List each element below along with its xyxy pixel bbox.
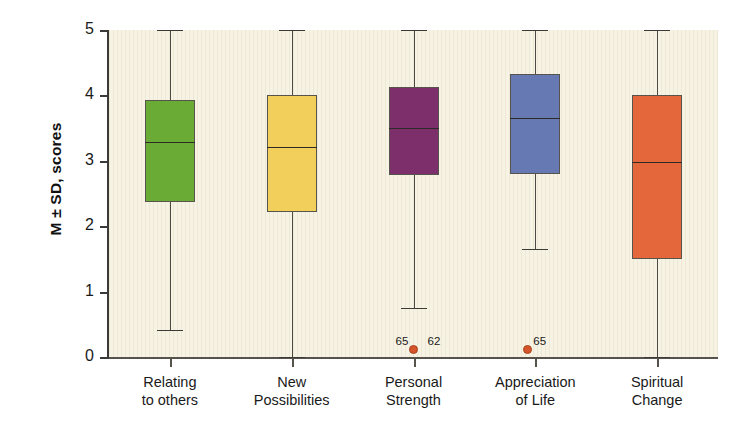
median-line xyxy=(267,147,317,148)
y-axis-tick-label: 0 xyxy=(85,348,94,364)
outlier-point[interactable] xyxy=(409,345,418,354)
whisker-cap-upper xyxy=(279,30,305,31)
outlier-label: 65 xyxy=(396,336,409,348)
box-rect[interactable] xyxy=(389,87,439,175)
whisker-cap-upper xyxy=(157,30,183,31)
whisker-cap-lower xyxy=(401,308,427,309)
median-line xyxy=(389,128,439,129)
x-axis-tick xyxy=(657,357,659,367)
box-plot-figure: M ± SD, scores 012345 Relating to others… xyxy=(0,0,734,432)
box-rect[interactable] xyxy=(267,95,317,212)
plot-area: 012345 Relating to othersNew Possibiliti… xyxy=(107,30,718,359)
x-axis-tick xyxy=(292,357,294,367)
whisker-cap-upper xyxy=(401,30,427,31)
whisker-cap-upper xyxy=(522,30,548,31)
y-axis-tick-label: 1 xyxy=(85,283,94,299)
median-line xyxy=(145,142,195,143)
x-axis-tick xyxy=(414,357,416,367)
y-axis-tick: 2 xyxy=(100,226,109,228)
y-axis-tick-label: 4 xyxy=(85,86,94,102)
x-axis-tick xyxy=(170,357,172,367)
y-axis-tick: 1 xyxy=(100,292,109,294)
whisker-cap-lower xyxy=(522,249,548,250)
x-axis-category-label: Spiritual Change xyxy=(582,373,732,409)
y-axis-title: M ± SD, scores xyxy=(47,79,65,279)
x-axis-tick xyxy=(535,357,537,367)
y-axis-tick: 3 xyxy=(100,161,109,163)
median-line xyxy=(632,162,682,163)
y-axis-tick-label: 2 xyxy=(85,217,94,233)
y-axis-tick: 4 xyxy=(100,95,109,97)
median-line xyxy=(510,118,560,119)
whisker-cap-lower xyxy=(279,357,305,358)
outlier-label: 62 xyxy=(428,336,441,348)
y-axis-tick-label: 5 xyxy=(85,21,94,37)
outlier-point[interactable] xyxy=(523,345,532,354)
box-rect[interactable] xyxy=(145,100,195,202)
whisker-cap-lower xyxy=(644,357,670,358)
whisker-cap-lower xyxy=(157,330,183,331)
y-axis-tick: 5 xyxy=(100,30,109,32)
y-axis-tick-label: 3 xyxy=(85,152,94,168)
outlier-label: 65 xyxy=(533,336,546,348)
box-rect[interactable] xyxy=(510,74,560,173)
y-axis-tick: 0 xyxy=(100,357,109,359)
whisker-cap-upper xyxy=(644,30,670,31)
box-rect[interactable] xyxy=(632,95,682,259)
